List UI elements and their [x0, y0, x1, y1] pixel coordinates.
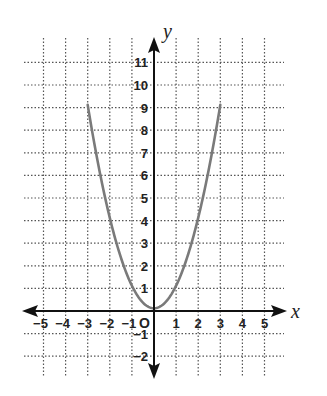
y-tick-label: 6: [141, 168, 148, 183]
x-tick-label: −4: [55, 316, 71, 331]
x-tick-label: 3: [217, 316, 224, 331]
y-tick-label: 9: [141, 101, 148, 116]
y-tick-label: 10: [134, 78, 148, 93]
y-tick-label: 4: [141, 214, 149, 229]
x-tick-label: 5: [261, 316, 268, 331]
y-tick-label: 5: [141, 191, 148, 206]
origin-label: O: [139, 315, 150, 331]
x-tick-label: −3: [77, 316, 92, 331]
tick-labels: −5−4−3−2−112345−2−11234567891011: [33, 55, 268, 364]
y-tick-label: −2: [133, 349, 148, 364]
y-axis-label: y: [161, 20, 172, 43]
x-tick-label: −2: [99, 316, 114, 331]
x-tick-label: 4: [239, 316, 247, 331]
y-tick-label: 11: [134, 55, 148, 70]
x-axis-label: x: [290, 300, 300, 322]
y-tick-label: 7: [141, 146, 148, 161]
x-tick-label: −5: [33, 316, 48, 331]
y-tick-label: 8: [141, 123, 148, 138]
y-tick-label: 2: [141, 259, 148, 274]
x-tick-label: 2: [195, 316, 202, 331]
x-tick-label: 1: [172, 316, 179, 331]
y-tick-label: 1: [141, 281, 148, 296]
y-tick-label: 3: [141, 236, 148, 251]
parabola-chart: −5−4−3−2−112345−2−11234567891011 x y O: [0, 0, 327, 396]
